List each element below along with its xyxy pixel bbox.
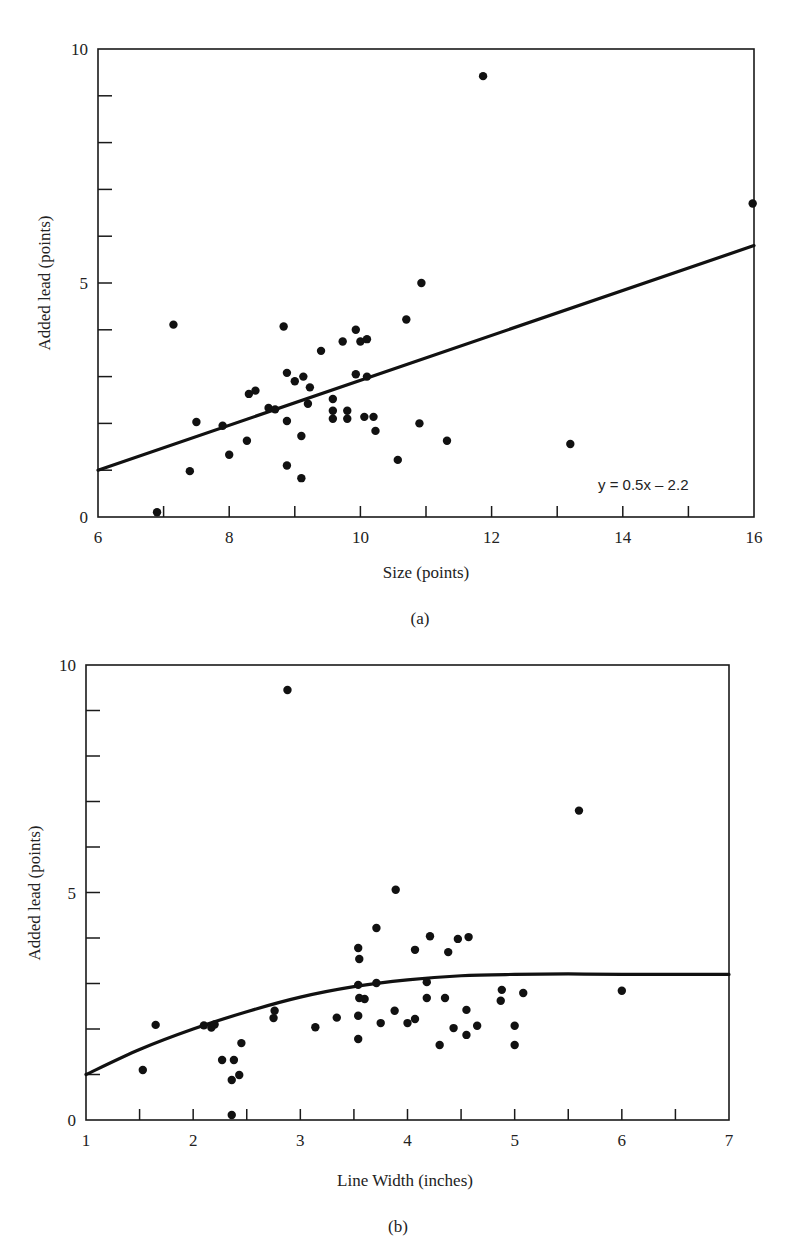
- data-point: [192, 418, 200, 426]
- data-point: [283, 369, 291, 377]
- data-point: [360, 413, 368, 421]
- x-tick-label: 10: [352, 528, 369, 547]
- data-point: [575, 806, 583, 814]
- data-point: [225, 451, 233, 459]
- data-point: [354, 981, 362, 989]
- data-point: [271, 405, 279, 413]
- data-point: [283, 461, 291, 469]
- data-point: [139, 1066, 147, 1074]
- data-point: [363, 372, 371, 380]
- x-tick-label: 3: [296, 1131, 305, 1150]
- data-point: [218, 1056, 226, 1064]
- data-point: [479, 72, 487, 80]
- data-point: [311, 1023, 319, 1031]
- data-point: [283, 686, 291, 694]
- data-point: [299, 372, 307, 380]
- data-point: [251, 386, 259, 394]
- data-point: [392, 886, 400, 894]
- data-point: [354, 1035, 362, 1043]
- data-point: [403, 1019, 411, 1027]
- data-point: [329, 407, 337, 415]
- data-point: [329, 395, 337, 403]
- data-point: [371, 427, 379, 435]
- x-axis-label-b: Line Width (inches): [337, 1171, 473, 1190]
- data-point: [444, 948, 452, 956]
- data-point: [338, 337, 346, 345]
- data-point: [343, 407, 351, 415]
- data-point: [519, 989, 527, 997]
- y-tick-label: 5: [80, 274, 89, 293]
- data-point: [228, 1111, 236, 1119]
- data-point: [435, 1041, 443, 1049]
- data-point: [402, 315, 410, 323]
- data-point: [343, 415, 351, 423]
- data-point: [363, 335, 371, 343]
- figure: 68101214160510 y = 0.5x – 2.2 Size (poin…: [0, 0, 795, 1251]
- data-point: [369, 413, 377, 421]
- y-tick-label: 10: [71, 40, 88, 59]
- data-point: [454, 935, 462, 943]
- data-point: [497, 997, 505, 1005]
- data-point: [354, 1012, 362, 1020]
- data-point: [306, 383, 314, 391]
- x-tick-label: 5: [510, 1131, 519, 1150]
- data-point: [237, 1039, 245, 1047]
- data-point: [317, 347, 325, 355]
- tick-marks-b: [86, 711, 675, 1121]
- data-point: [618, 987, 626, 995]
- y-axis-label-b: Added lead (points): [25, 825, 44, 960]
- plot-frame-a: [98, 49, 754, 517]
- data-point: [218, 422, 226, 430]
- y-tick-label: 10: [59, 656, 76, 675]
- data-point: [355, 955, 363, 963]
- data-point: [566, 440, 574, 448]
- x-tick-label: 1: [82, 1131, 91, 1150]
- x-axis-label-a: Size (points): [383, 563, 469, 582]
- data-point: [426, 932, 434, 940]
- data-point: [462, 1006, 470, 1014]
- x-tick-label: 8: [225, 528, 234, 547]
- data-point: [304, 400, 312, 408]
- data-point: [354, 944, 362, 952]
- fit-equation-label: y = 0.5x – 2.2: [598, 476, 688, 493]
- fit-line-a: [98, 246, 754, 471]
- x-tick-label: 12: [483, 528, 500, 547]
- data-point: [230, 1056, 238, 1064]
- data-point: [417, 279, 425, 287]
- data-point: [377, 1019, 385, 1027]
- data-point: [441, 994, 449, 1002]
- data-point: [473, 1022, 481, 1030]
- tick-labels-b: 12345670510: [59, 656, 734, 1150]
- data-point: [333, 1013, 341, 1021]
- data-point: [390, 1007, 398, 1015]
- y-axis-label-a: Added lead (points): [35, 215, 54, 350]
- x-tick-label: 2: [189, 1131, 198, 1150]
- data-point: [510, 1022, 518, 1030]
- y-tick-label: 5: [68, 884, 77, 903]
- data-point: [153, 508, 161, 516]
- x-tick-label: 6: [94, 528, 103, 547]
- data-point: [186, 467, 194, 475]
- data-point: [243, 437, 251, 445]
- data-point: [169, 320, 177, 328]
- tick-marks-a: [98, 96, 688, 517]
- data-point: [329, 415, 337, 423]
- data-point: [411, 1015, 419, 1023]
- data-point: [372, 924, 380, 932]
- data-points-a: [153, 72, 757, 517]
- data-point: [415, 419, 423, 427]
- data-point: [297, 432, 305, 440]
- y-tick-label: 0: [68, 1111, 77, 1130]
- data-point: [449, 1024, 457, 1032]
- panel-caption-b: (b): [388, 1217, 408, 1236]
- data-point: [235, 1071, 243, 1079]
- data-point: [352, 326, 360, 334]
- chart-panel-a: 68101214160510 y = 0.5x – 2.2 Size (poin…: [35, 40, 763, 628]
- data-point: [352, 370, 360, 378]
- x-tick-label: 14: [614, 528, 632, 547]
- tick-labels-a: 68101214160510: [71, 40, 763, 547]
- data-point: [510, 1041, 518, 1049]
- data-point: [498, 986, 506, 994]
- data-point: [360, 995, 368, 1003]
- data-point: [423, 994, 431, 1002]
